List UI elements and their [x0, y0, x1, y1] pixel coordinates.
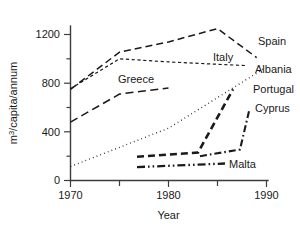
- series-label-spain: Spain: [258, 35, 286, 47]
- y-tick-label-400: 400: [42, 126, 60, 138]
- x-tick-label-1980: 1980: [156, 189, 180, 201]
- series-label-albania: Albania: [255, 63, 293, 75]
- series-line-albania: [71, 69, 265, 167]
- y-tick-label-1200: 1200: [36, 28, 60, 40]
- y-axis-title: m3/capita/annum: [7, 62, 20, 144]
- series-label-greece: Greece: [118, 73, 154, 85]
- water-use-line-chart: 1200 800 400 0 1970 1980 1990 Year m3/ca…: [0, 0, 300, 226]
- series-line-greece: [71, 88, 169, 122]
- series-label-cyprus: Cyprus: [255, 102, 290, 114]
- y-tick-label-0: 0: [54, 174, 60, 186]
- series-line-malta: [137, 164, 225, 168]
- series-label-malta: Malta: [229, 158, 257, 170]
- series-label-portugal: Portugal: [253, 83, 294, 95]
- series-line-italy: [71, 59, 248, 89]
- series-paths: [71, 29, 265, 168]
- chart-canvas: 1200 800 400 0 1970 1980 1990 Year m3/ca…: [0, 0, 300, 226]
- y-axis-title-rest: /capita/annum: [7, 62, 19, 131]
- svg-text:m3/capita/annum: m3/capita/annum: [7, 62, 20, 144]
- x-axis-title: Year: [157, 209, 180, 221]
- series-line-portugal: [137, 89, 233, 157]
- x-tick-label-1990: 1990: [254, 189, 278, 201]
- y-axis-title-m: m: [7, 135, 19, 144]
- x-tick-label-1970: 1970: [58, 189, 82, 201]
- y-tick-label-800: 800: [42, 77, 60, 89]
- series-label-italy: Italy: [213, 51, 234, 63]
